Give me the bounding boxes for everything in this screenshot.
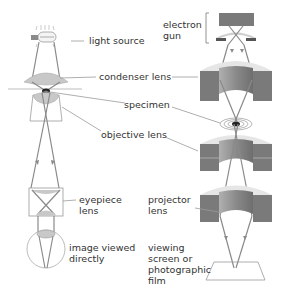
- label-viewing-screen: viewing screen or photographic film: [148, 242, 211, 286]
- objective-lens-light: [33, 93, 59, 105]
- projector-magnetic-lens: [200, 186, 272, 223]
- label-electron-gun: electron gun: [163, 19, 202, 41]
- light-microscope: [8, 25, 125, 268]
- condenser-lens-light: [24, 73, 68, 85]
- eyepiece-leader: [63, 200, 76, 201]
- label-light-source: light source: [89, 35, 145, 46]
- label-condenser-lens: condenser lens: [99, 71, 171, 82]
- electron-microscope: [165, 13, 272, 280]
- light-bulb-icon: [31, 25, 56, 47]
- viewing-screen: [206, 262, 265, 280]
- label-specimen: specimen: [124, 99, 170, 110]
- electron-gun-bracket: [206, 13, 209, 43]
- label-image-viewed-directly: image viewed directly: [69, 242, 135, 264]
- objective-magnetic-lens: [200, 135, 272, 171]
- specimen-electron: [220, 118, 252, 130]
- label-projector-lens: projector lens: [148, 194, 191, 216]
- specimen-leader-left: [50, 92, 125, 103]
- objective-leader-right: [165, 137, 198, 151]
- electron-gun-cathode: [219, 13, 254, 26]
- objective-leader-left: [62, 107, 101, 131]
- label-eyepiece-lens: eyepiece lens: [79, 194, 122, 216]
- label-objective-lens: objective lens: [101, 129, 167, 140]
- condenser-magnetic-lens: [200, 61, 272, 101]
- specimen-leader-right: [172, 107, 220, 123]
- condenser-leader-left: [60, 77, 96, 78]
